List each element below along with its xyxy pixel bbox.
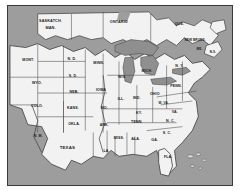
map-label-tennessee: TENN. <box>131 121 142 125</box>
map-label-colorado: COLO. <box>31 105 43 109</box>
map-label-ohio: OHIO <box>150 93 160 97</box>
map-label-new-york: N. Y. <box>175 65 183 69</box>
map-label-ontario: ONTARIO <box>110 20 128 24</box>
map-label-west-virginia: W. VA. <box>159 103 169 106</box>
map-label-florida: FLA. <box>164 156 172 160</box>
map-label-south-carolina: S. C. <box>163 132 172 136</box>
map-label-virginia: VA. <box>172 111 178 115</box>
map-label-saskatchewan: SASKATCH. <box>39 20 62 24</box>
map-label-wyoming: WYO. <box>32 82 42 86</box>
map-label-montana: MONT. <box>22 59 34 63</box>
map-figure: SASKATCH.MAN.ONTARIOQUE.NEW BRUNS.N.S.ME… <box>0 0 240 193</box>
map-label-minnesota: MINN. <box>93 62 104 66</box>
map-label-quebec: QUE. <box>174 22 184 26</box>
map-label-oklahoma: OKLA. <box>68 123 80 127</box>
map-label-indiana: IND. <box>133 97 141 101</box>
map-label-nova-scotia: N.S. <box>210 52 217 55</box>
map-label-north-dakota: N. D. <box>67 58 76 62</box>
map-label-michigan: MICH. <box>141 70 152 74</box>
map-label-north-carolina: N. C. <box>166 120 175 124</box>
map-frame: SASKATCH.MAN.ONTARIOQUE.NEW BRUNS.N.S.ME… <box>7 5 233 186</box>
map-label-alabama: ALA. <box>131 138 140 142</box>
map-label-nebraska: NEB. <box>70 91 79 95</box>
map-label-new-brunswick: NEW BRUNS. <box>184 39 205 42</box>
map-label-wisconsin: WIS. <box>118 77 126 81</box>
map-label-manitoba: MAN. <box>45 27 55 31</box>
map-graphic <box>8 6 232 185</box>
map-label-louisiana: LA. <box>103 150 109 154</box>
map-label-south-dakota: S. D. <box>69 75 78 79</box>
map-label-iowa: IOWA <box>96 89 106 93</box>
map-label-georgia: GA. <box>151 139 158 143</box>
map-label-new-mexico: N. M. <box>34 135 43 139</box>
map-label-pennsylvania: PENN. <box>170 85 182 89</box>
map-label-missouri: MO. <box>101 107 108 111</box>
map-label-mississippi: MISS. <box>114 137 124 141</box>
map-label-texas: TEXAS <box>60 146 75 151</box>
map-label-arkansas: ARK. <box>100 124 109 128</box>
map-label-maine: ME. <box>197 48 203 51</box>
map-label-illinois: ILL. <box>118 98 125 102</box>
map-label-kansas: KANS. <box>67 107 79 111</box>
map-label-kentucky: KY. <box>136 112 142 116</box>
